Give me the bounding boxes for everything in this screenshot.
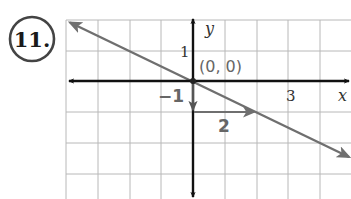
origin-point <box>190 78 196 84</box>
x-tick-label: 3 <box>286 87 296 105</box>
y-axis-label: y <box>204 19 215 38</box>
y-tick-label: 1 <box>180 43 190 61</box>
rise-label: −1 <box>158 86 184 106</box>
plotted-line <box>70 23 349 158</box>
run-label: 2 <box>218 116 230 136</box>
problem-number: 11. <box>14 27 51 52</box>
coordinate-plane-figure: 11. y x 1 3 (0, 0) −1 2 <box>0 0 351 199</box>
x-axis-label: x <box>338 86 347 105</box>
problem-number-badge: 11. <box>10 17 54 61</box>
origin-point-label: (0, 0) <box>199 57 242 76</box>
grid <box>66 20 351 199</box>
